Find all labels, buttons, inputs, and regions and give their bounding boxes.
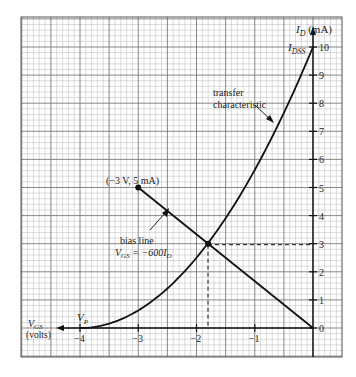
jfet-bias-chart: ID (mA) IDSS VP VGS (volts) (−3 V, 5 mA)… xyxy=(0,0,356,377)
x-axis-arrow-icon xyxy=(56,325,64,331)
axis-ticks xyxy=(80,47,317,332)
y-tick-label: 10 xyxy=(319,42,329,53)
y-tick-labels: 012345678910 xyxy=(319,42,329,334)
y-tick-label: 3 xyxy=(319,239,324,250)
vp-label: VP xyxy=(77,311,89,326)
grid-major xyxy=(21,17,342,357)
x-tick-label: −4 xyxy=(74,333,85,344)
y-tick-label: 4 xyxy=(319,211,324,222)
transfer-label-line1: transfer xyxy=(213,87,244,98)
y-tick-label: 0 xyxy=(319,323,324,334)
plot-border xyxy=(21,17,342,357)
grid-minor xyxy=(21,17,342,357)
x-tick-label: −2 xyxy=(191,333,202,344)
y-tick-label: 5 xyxy=(319,183,324,194)
bias-label-line1: bias line xyxy=(120,235,154,246)
bias-equation: VGS = −600ID xyxy=(115,247,172,260)
bias-start-point-label: (−3 V, 5 mA) xyxy=(106,175,159,187)
transfer-label-line2: characteristic xyxy=(213,99,267,110)
y-tick-label: 9 xyxy=(319,70,324,81)
x-axis-unit: (volts) xyxy=(26,330,51,341)
x-tick-label: −3 xyxy=(132,333,143,344)
y-tick-label: 2 xyxy=(319,267,324,278)
y-tick-label: 8 xyxy=(319,98,324,109)
y-tick-label: 1 xyxy=(319,295,324,306)
y-tick-label: 7 xyxy=(319,126,324,137)
q-point xyxy=(205,241,211,247)
x-tick-label: −1 xyxy=(249,333,260,344)
y-tick-label: 6 xyxy=(319,154,324,165)
